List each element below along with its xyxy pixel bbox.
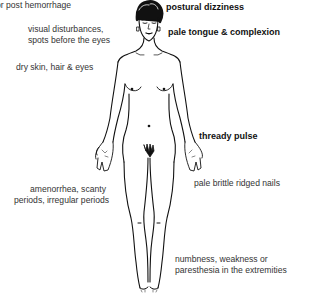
legs-icon <box>124 158 174 292</box>
pale-tongue-label: pale tongue & complexion <box>168 27 280 38</box>
dry-skin-label: dry skin, hair & eyes <box>16 62 93 73</box>
amenorrhea-label-line2: periods, irregular periods <box>14 195 109 206</box>
visual-disturbances-label-line1: visual disturbances, <box>28 24 103 35</box>
numbness-label-line2: paresthesia in the extremities <box>175 265 287 276</box>
pale-nails-label: pale brittle ridged nails <box>194 178 280 189</box>
left-arm-icon <box>95 62 125 171</box>
postural-dizziness-label: postural dizziness <box>166 2 244 13</box>
amenorrhea-label-line1: amenorrhea, scanty <box>30 184 106 195</box>
right-arm-icon <box>173 62 203 171</box>
thready-pulse-label: thready pulse <box>199 131 258 142</box>
numbness-label-line1: numbness, weakness or <box>175 254 268 265</box>
visual-disturbances-label-line2: spots before the eyes <box>28 35 110 46</box>
torso-icon <box>118 38 180 162</box>
post-hemorrhage-label: or post hemorrhage <box>0 0 71 11</box>
